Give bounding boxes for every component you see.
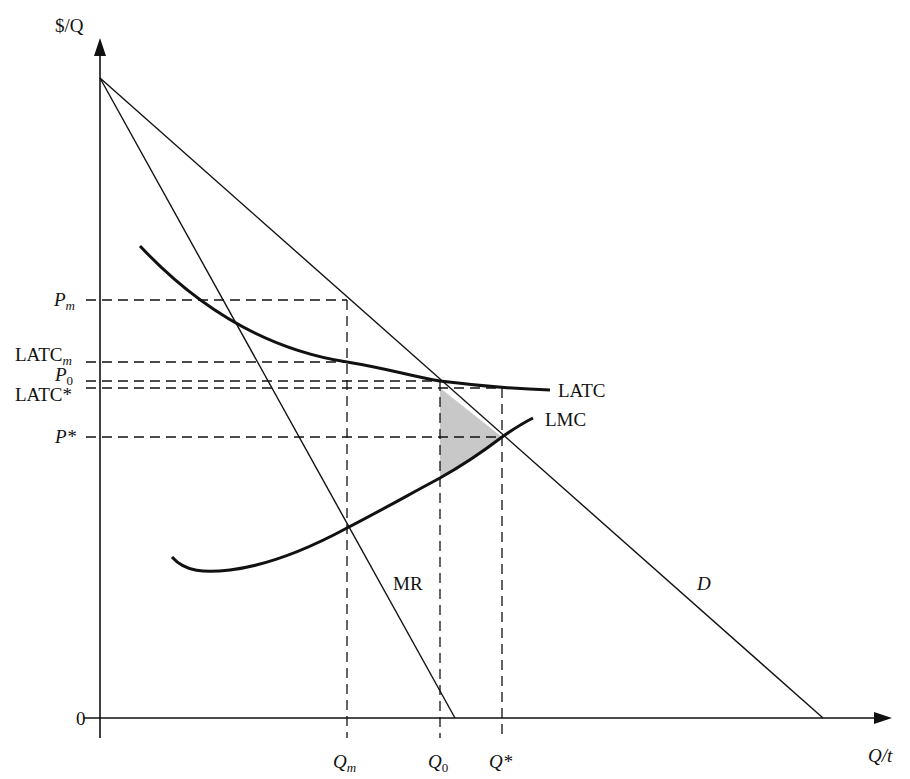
d-label: D	[697, 574, 711, 593]
p0-main: P	[55, 364, 67, 385]
deadweight-loss-area	[440, 388, 502, 478]
pm-label: Pm	[54, 290, 75, 309]
lmc-label: LMC	[545, 410, 586, 429]
q0-sub: 0	[442, 760, 449, 775]
latcm-main: LATC	[15, 344, 63, 365]
latcstar-label: LATC*	[15, 385, 72, 404]
x-axis-label: Q/t	[868, 746, 892, 765]
y-axis-arrow-icon	[94, 38, 106, 56]
latc-label: LATC	[558, 381, 606, 400]
reference-lines	[86, 300, 502, 738]
x-axis-arrow-icon	[874, 712, 892, 724]
x-axis-label-q: Q	[868, 745, 882, 766]
qm-label: Qm	[333, 752, 356, 771]
y-axis-label-text: $/Q	[55, 15, 84, 36]
mr-label: MR	[393, 574, 423, 593]
q0-label: Q0	[428, 752, 448, 771]
q0-main: Q	[428, 751, 442, 772]
qm-main: Q	[333, 751, 347, 772]
y-axis-label: $/Q	[55, 16, 84, 35]
pm-sub: m	[66, 298, 75, 313]
monopoly-cost-chart	[0, 0, 910, 779]
demand-curve	[100, 78, 823, 718]
latcm-label: LATCm	[15, 345, 72, 364]
latc-curve	[140, 246, 550, 390]
marginal-revenue-curve	[100, 78, 455, 718]
p0-label: P0	[55, 365, 73, 384]
pstar-label: P*	[55, 427, 76, 446]
qstar-label: Q*	[489, 752, 512, 771]
origin-label: 0	[76, 709, 86, 728]
axes	[84, 50, 878, 738]
qm-sub: m	[347, 760, 356, 775]
pm-main: P	[54, 289, 66, 310]
x-axis-label-t: /t	[882, 745, 893, 766]
